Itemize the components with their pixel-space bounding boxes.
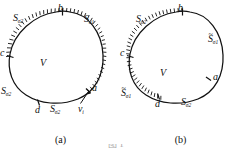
label-s-sigma1-top-right-a: Sσ1: [84, 14, 94, 24]
volume-label-b: V: [160, 68, 166, 78]
figure-root: Sσ2 Sσ1 Sσ2 Sσ2 b c d a V vi (a): [0, 0, 241, 151]
tick-a-b: [206, 77, 211, 81]
point-label-c-a: c: [0, 48, 4, 58]
clipped-bottom-text: 图 1: [108, 144, 138, 150]
boundary-curve-b: [129, 11, 223, 103]
boundary-curve-a: [9, 11, 103, 103]
point-label-d-a: d: [35, 105, 40, 115]
point-label-a-a: a: [92, 83, 97, 93]
label-s-sigma2-bottom-a: Sσ2: [50, 104, 60, 114]
volume-label-a: V: [40, 58, 46, 68]
caption-b: (b): [120, 134, 241, 145]
label-s-sigma2-bottom-b: Sσ2: [181, 97, 191, 107]
label-s-sigma2-left-a: Sσ2: [1, 86, 11, 96]
point-label-b-b: b: [178, 3, 183, 13]
hatching-left-b: [126, 8, 182, 100]
caption-a: (a): [0, 134, 121, 145]
label-s-sigma2-top-left-b: Sσ2: [136, 14, 146, 24]
point-label-d-b: d: [155, 99, 160, 109]
label-s-tilde-sigma1-right-b: ~Sσ1: [208, 34, 218, 44]
point-label-c-b: c: [120, 48, 124, 58]
panel-b: Sσ2 ~Sσ1 ~Sσ1 Sσ2 b c d a V (b): [120, 0, 241, 151]
label-s-sigma2-top-left-a: Sσ2: [13, 13, 23, 23]
panel-a: Sσ2 Sσ1 Sσ2 Sσ2 b c d a V vi (a): [0, 0, 121, 151]
point-label-b-a: b: [58, 3, 63, 13]
label-velocity-vector-a: vi: [78, 104, 84, 114]
label-s-tilde-sigma1-bottom-left-b: ~Sσ1: [121, 88, 131, 98]
point-label-a-b: a: [213, 72, 218, 82]
